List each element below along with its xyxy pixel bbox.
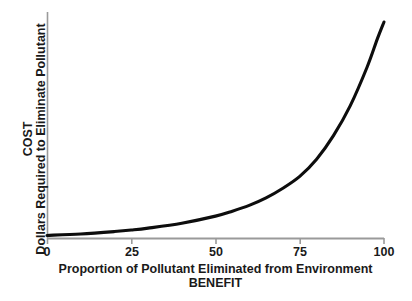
x-tick-label-100: 100 <box>374 245 395 259</box>
y-axis-sublabel-cost: COST <box>22 121 35 156</box>
x-tick-label-75: 75 <box>293 245 307 259</box>
x-tick-label-25: 25 <box>125 245 139 259</box>
x-tick-label-50: 50 <box>209 245 223 259</box>
plot-area <box>0 0 412 301</box>
cost-benefit-chart: 0 25 50 75 100 Proportion of Pollutant E… <box>0 0 412 301</box>
x-axis-sublabel-benefit: BENEFIT <box>47 276 384 291</box>
cost-curve-line <box>47 22 384 235</box>
y-axis-label: Dollars Required to Eliminate Pollutant <box>35 23 48 254</box>
x-axis-label: Proportion of Pollutant Eliminated from … <box>47 262 384 277</box>
